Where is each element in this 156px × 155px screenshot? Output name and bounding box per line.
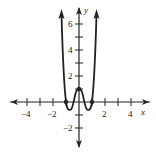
x-axis: −4 −2 2 4 x — [10, 98, 150, 119]
y-axis: 6 4 2 −2 y — [63, 5, 88, 148]
y-tick-label-4: 4 — [68, 45, 73, 55]
function-graph: −4 −2 2 4 x 6 4 2 −2 y — [0, 0, 156, 155]
point-1-0 — [90, 100, 94, 104]
y-tick-label-neg2: −2 — [63, 123, 73, 133]
x-tick-label-neg2: −2 — [47, 109, 57, 119]
point-0-1 — [77, 87, 81, 91]
point-neg1-0 — [64, 100, 68, 104]
x-tick-label-4: 4 — [128, 109, 133, 119]
x-tick-label-neg4: −4 — [21, 109, 31, 119]
y-axis-label: y — [83, 5, 88, 15]
x-tick-label-2: 2 — [102, 109, 107, 119]
y-tick-label-6: 6 — [68, 19, 73, 29]
y-tick-label-2: 2 — [68, 71, 73, 81]
x-axis-label: x — [140, 107, 145, 117]
